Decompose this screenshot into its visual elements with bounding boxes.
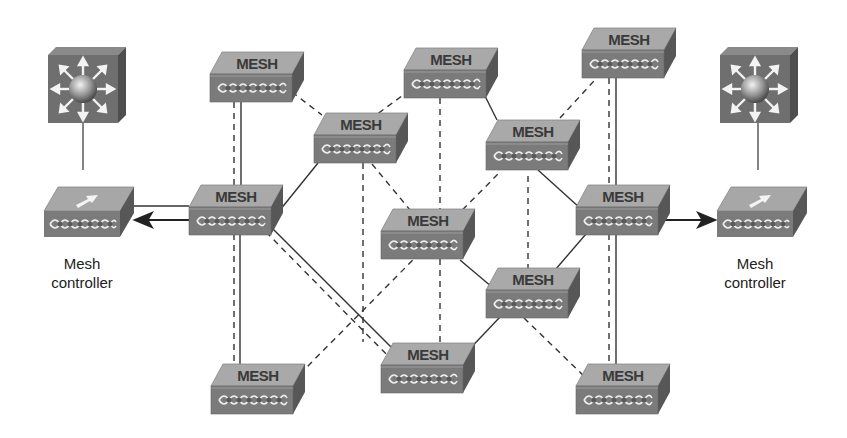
controller-icon — [44, 187, 134, 237]
diagram-canvas: Mesh controller Mesh controller MESH MES… — [0, 0, 847, 438]
mesh-node: MESH — [486, 268, 580, 318]
mesh-controller-left: Mesh controller — [44, 187, 134, 291]
mesh-node: MESH — [576, 364, 670, 414]
router-right — [720, 47, 798, 123]
mesh-node-label: MESH — [215, 188, 256, 205]
controller-icon — [717, 187, 807, 237]
mesh-network-diagram: Mesh controller Mesh controller MESH MES… — [0, 0, 847, 438]
mesh-controller-right: Mesh controller — [717, 187, 807, 291]
mesh-node-label: MESH — [430, 51, 471, 68]
mesh-node: MESH — [210, 52, 304, 102]
mesh-node-label: MESH — [407, 212, 448, 229]
controller-label-line2: controller — [724, 274, 786, 291]
mesh-node: MESH — [576, 185, 670, 235]
mesh-node-label: MESH — [340, 116, 381, 133]
mesh-node-label: MESH — [236, 55, 277, 72]
mesh-node: MESH — [381, 343, 475, 393]
mesh-node-label: MESH — [602, 188, 643, 205]
controller-label-line1: Mesh — [737, 255, 774, 272]
multilayer-switch-icon — [720, 47, 798, 123]
mesh-node-label: MESH — [407, 346, 448, 363]
router-left — [48, 47, 126, 123]
mesh-node: MESH — [582, 28, 676, 78]
mesh-node: MESH — [404, 48, 498, 98]
mesh-node: MESH — [189, 185, 283, 235]
mesh-node-label: MESH — [602, 367, 643, 384]
mesh-node: MESH — [211, 364, 305, 414]
mesh-node: MESH — [314, 113, 408, 163]
mesh-node-label: MESH — [512, 271, 553, 288]
multilayer-switch-icon — [48, 47, 126, 123]
mesh-node: MESH — [486, 120, 580, 170]
controller-label-line1: Mesh — [64, 255, 101, 272]
mesh-node-label: MESH — [608, 31, 649, 48]
mesh-node-label: MESH — [237, 367, 278, 384]
controller-label-line2: controller — [51, 274, 113, 291]
mesh-node: MESH — [381, 209, 475, 259]
mesh-node-label: MESH — [512, 123, 553, 140]
